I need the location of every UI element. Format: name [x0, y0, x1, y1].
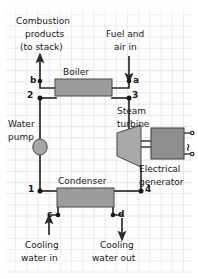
label-point-b: b — [30, 75, 36, 86]
dot-b — [38, 79, 43, 84]
label-steam-turbine-line2: turbine — [117, 119, 149, 130]
dot-3 — [127, 96, 132, 101]
condenser-body — [57, 188, 114, 207]
diagram-canvas: Combustion products (to stack) Fuel and … — [0, 0, 198, 279]
turbine-generator-shaft — [141, 141, 152, 147]
water-pump-body — [33, 139, 47, 155]
label-point-c: c — [47, 209, 52, 220]
label-point-4: 4 — [145, 184, 151, 195]
dot-2 — [38, 96, 43, 101]
dot-4 — [139, 189, 144, 194]
pipe-fuel-to-boiler — [112, 81, 129, 88]
label-point-d: d — [118, 209, 124, 220]
label-point-2: 2 — [27, 90, 33, 101]
label-boiler: Boiler — [63, 67, 89, 78]
label-fuel-line2: air in — [114, 42, 137, 53]
dot-a — [127, 79, 132, 84]
pipe-boiler-to-stack — [40, 81, 56, 88]
label-steam-turbine-line1: Steam — [117, 106, 146, 117]
label-point-a: a — [133, 75, 139, 86]
label-combustion-line3: (to stack) — [20, 42, 63, 53]
steam-turbine-body — [117, 125, 141, 167]
label-water-pump-line2: pump — [8, 132, 34, 143]
dot-c — [56, 213, 61, 218]
label-cooling-in-line2: water in — [21, 253, 58, 264]
label-fuel-line1: Fuel and — [106, 29, 144, 40]
label-condenser: Condenser — [58, 176, 106, 187]
label-electrical-generator-line1: Electrical — [139, 164, 180, 175]
label-combustion-line2: products — [25, 29, 64, 40]
electrical-generator-body — [151, 128, 184, 159]
label-cooling-in-line1: Cooling — [25, 240, 59, 251]
ac-symbol-icon: ~ — [183, 143, 194, 152]
label-point-3: 3 — [132, 90, 138, 101]
dot-d — [111, 213, 116, 218]
boiler-body — [55, 79, 112, 96]
label-cooling-out-line2: water out — [92, 253, 135, 264]
label-water-pump-line1: Water — [8, 119, 35, 130]
label-combustion-line1: Combustion — [16, 16, 70, 27]
dot-1 — [38, 189, 43, 194]
label-cooling-out-line1: Cooling — [100, 240, 134, 251]
label-point-1: 1 — [28, 184, 34, 195]
